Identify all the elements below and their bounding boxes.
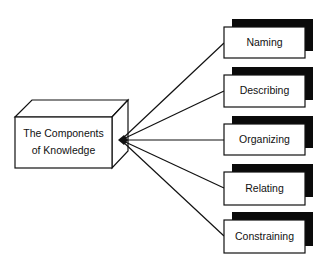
source-label-line-1: The Components (15, 125, 112, 142)
target-label-relating: Relating (224, 180, 305, 197)
source-label-line-2: of Knowledge (15, 142, 112, 159)
target-label-naming: Naming (224, 34, 305, 51)
source-label: The Components of Knowledge (15, 125, 112, 159)
connector-lines (121, 43, 224, 236)
target-label-organizing: Organizing (224, 131, 305, 148)
target-label-describing: Describing (224, 82, 305, 99)
target-label-constraining: Constraining (224, 228, 305, 245)
